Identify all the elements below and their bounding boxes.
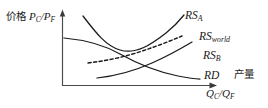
x-axis-label-math: QC/QF bbox=[206, 88, 235, 99]
curves-group bbox=[64, 15, 200, 79]
curve-rs-a bbox=[83, 15, 184, 51]
curve-label-rs-b-base: RS bbox=[203, 49, 216, 61]
curve-rs-world bbox=[88, 36, 182, 63]
y-axis-label-math-sub2: F bbox=[51, 15, 56, 24]
y-axis-label-math-sep: /P bbox=[41, 10, 51, 22]
x-axis-label-math-sub2: F bbox=[230, 92, 235, 101]
curve-label-rd-base: RD bbox=[204, 69, 219, 81]
x-axis-label-math-sub1: C bbox=[214, 92, 219, 101]
y-axis-arrow-icon bbox=[60, 10, 65, 17]
curve-label-rs-a-base: RS bbox=[185, 9, 198, 21]
curve-rd bbox=[64, 38, 200, 79]
curve-label-rs-world-sub: world bbox=[212, 35, 230, 44]
x-axis-label-math-sep: /Q bbox=[219, 87, 230, 99]
y-axis-label-cn: 价格 bbox=[6, 10, 26, 22]
y-axis-label-math-sub1: C bbox=[36, 15, 41, 24]
x-axis-label-cn: 产量 bbox=[234, 69, 254, 80]
curve-label-rs-b: RSB bbox=[203, 50, 221, 62]
curve-label-rs-a-sub: A bbox=[198, 14, 203, 23]
curve-label-rd: RD bbox=[204, 70, 219, 82]
curve-label-rs-b-sub: B bbox=[216, 54, 221, 63]
relative-supply-demand-figure: 价格PC/PF 产量 QC/QF RSA RSworld RSB RD bbox=[0, 0, 268, 108]
curve-label-rs-world-base: RS bbox=[199, 30, 212, 42]
curve-label-rs-a: RSA bbox=[185, 10, 203, 22]
y-axis-label-math-prefix: P bbox=[29, 10, 36, 22]
y-axis-label-math: PC/PF bbox=[29, 10, 55, 22]
x-axis-label-math-prefix: Q bbox=[206, 87, 214, 99]
curve-label-rs-world: RSworld bbox=[199, 31, 230, 43]
y-axis-label: 价格PC/PF bbox=[6, 11, 55, 22]
